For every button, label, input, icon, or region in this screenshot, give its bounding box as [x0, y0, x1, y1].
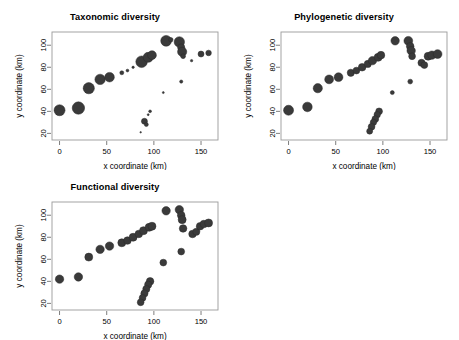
- bubble-series: [55, 206, 212, 306]
- data-point-bubble: [55, 275, 63, 283]
- data-point-bubble: [140, 131, 142, 133]
- data-point-bubble: [126, 69, 129, 72]
- data-point-bubble: [303, 102, 313, 112]
- data-point-bubble: [181, 54, 186, 59]
- data-point-bubble: [137, 299, 144, 306]
- y-axis-title: y coordinate (km): [244, 54, 253, 118]
- data-point-bubble: [148, 51, 157, 60]
- data-point-bubble: [190, 59, 192, 61]
- data-point-bubble: [206, 50, 212, 56]
- data-point-bubble: [390, 91, 394, 95]
- y-tick-label: 20: [39, 299, 48, 307]
- x-tick-label: 0: [286, 147, 290, 156]
- data-point-bubble: [120, 71, 124, 75]
- panel-phylogenetic-diversity: Phylogenetic diversity 05010015020406080…: [229, 4, 459, 170]
- data-point-bubble: [198, 51, 204, 57]
- y-tick-label: 100: [39, 209, 48, 222]
- x-tick-label: 100: [377, 147, 390, 156]
- y-tick-label: 40: [268, 107, 277, 115]
- x-tick-label: 150: [195, 317, 208, 326]
- y-tick-label: 80: [268, 63, 277, 71]
- x-axis-title: x coordinate (km): [332, 162, 396, 170]
- y-tick-label: 60: [39, 85, 48, 93]
- x-axis-title: x coordinate (km): [103, 332, 167, 340]
- x-tick-label: 50: [331, 147, 339, 156]
- data-point-bubble: [149, 110, 152, 113]
- data-point-bubble: [179, 225, 187, 233]
- y-axis-title: y coordinate (km): [15, 224, 24, 288]
- data-point-bubble: [284, 105, 294, 115]
- data-point-bubble: [74, 273, 82, 281]
- y-tick-label: 60: [268, 85, 277, 93]
- data-point-bubble: [54, 105, 65, 116]
- data-point-bubble: [72, 102, 84, 114]
- y-tick-label: 80: [39, 63, 48, 71]
- data-point-bubble: [421, 62, 428, 69]
- x-tick-label: 100: [148, 147, 161, 156]
- data-point-bubble: [433, 50, 442, 59]
- x-tick-label: 150: [195, 147, 208, 156]
- y-tick-label: 60: [39, 255, 48, 263]
- data-point-bubble: [83, 83, 94, 94]
- data-point-bubble: [148, 222, 156, 230]
- bubble-series: [284, 36, 442, 134]
- scatter-plot-taxonomic: 05010015020406080100x coordinate (km)y c…: [0, 4, 230, 170]
- data-point-bubble: [95, 74, 105, 84]
- data-point-bubble: [144, 123, 148, 127]
- x-tick-label: 50: [102, 317, 110, 326]
- data-point-bubble: [105, 72, 115, 82]
- data-point-bubble: [132, 66, 134, 68]
- x-tick-label: 100: [148, 317, 161, 326]
- data-point-bubble: [147, 114, 149, 116]
- data-point-bubble: [162, 92, 164, 94]
- y-tick-label: 20: [39, 129, 48, 137]
- y-axis-title: y coordinate (km): [15, 54, 24, 118]
- data-point-bubble: [205, 219, 213, 227]
- data-point-bubble: [160, 259, 167, 266]
- x-tick-label: 0: [57, 317, 61, 326]
- plot-frame: [281, 32, 447, 140]
- data-point-bubble: [408, 79, 413, 84]
- figure-canvas: Taxonomic diversity 05010015020406080100…: [0, 0, 459, 340]
- y-tick-label: 40: [39, 107, 48, 115]
- panel-taxonomic-diversity: Taxonomic diversity 05010015020406080100…: [0, 4, 230, 170]
- y-tick-label: 20: [268, 129, 277, 137]
- data-point-bubble: [169, 38, 173, 42]
- data-point-bubble: [377, 51, 385, 59]
- x-tick-label: 0: [57, 147, 61, 156]
- y-tick-label: 100: [39, 39, 48, 52]
- x-tick-label: 50: [102, 147, 110, 156]
- bubble-series: [54, 35, 211, 133]
- y-tick-label: 40: [39, 277, 48, 285]
- scatter-plot-functional: 05010015020406080100x coordinate (km)y c…: [0, 174, 230, 340]
- data-point-bubble: [367, 128, 373, 134]
- data-point-bubble: [178, 248, 185, 255]
- x-axis-title: x coordinate (km): [103, 162, 167, 170]
- data-point-bubble: [85, 253, 93, 261]
- data-point-bubble: [96, 245, 104, 253]
- plot-frame: [52, 32, 218, 140]
- y-tick-label: 100: [268, 39, 277, 52]
- data-point-bubble: [325, 75, 334, 84]
- scatter-plot-phylogenetic: 05010015020406080100x coordinate (km)y c…: [229, 4, 459, 170]
- y-tick-label: 80: [39, 233, 48, 241]
- data-point-bubble: [409, 53, 416, 60]
- panel-functional-diversity: Functional diversity 0501001502040608010…: [0, 174, 230, 340]
- data-point-bubble: [162, 207, 170, 215]
- data-point-bubble: [391, 37, 399, 45]
- data-point-bubble: [180, 80, 183, 83]
- x-tick-label: 150: [424, 147, 437, 156]
- data-point-bubble: [334, 73, 343, 82]
- data-point-bubble: [178, 216, 186, 224]
- plot-frame: [52, 202, 218, 310]
- data-point-bubble: [105, 242, 113, 250]
- data-point-bubble: [313, 84, 322, 93]
